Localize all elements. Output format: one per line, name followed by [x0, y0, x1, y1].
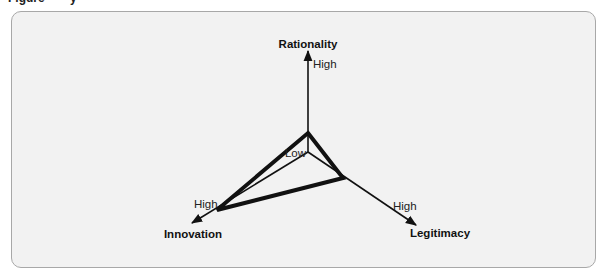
innovation-axis-title: Innovation	[164, 228, 222, 240]
legitimacy-high-label: High	[393, 200, 417, 212]
triangle-radar-diagram: Rationality Innovation Legitimacy High H…	[0, 0, 606, 278]
profile-polygon	[217, 133, 343, 210]
legitimacy-axis-title: Legitimacy	[410, 227, 471, 239]
innovation-axis	[192, 152, 308, 223]
origin-low-label: Low	[285, 147, 307, 159]
legitimacy-axis	[308, 152, 416, 225]
innovation-high-label: High	[194, 198, 218, 210]
rationality-high-label: High	[313, 58, 337, 70]
rationality-axis-title: Rationality	[279, 38, 338, 50]
